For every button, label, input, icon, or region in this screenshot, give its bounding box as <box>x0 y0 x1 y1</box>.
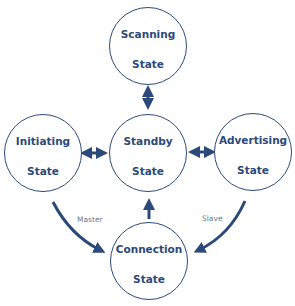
connection-label: Connection <box>111 243 187 255</box>
master-arrow <box>53 202 100 250</box>
initiating-sub: State <box>5 165 81 177</box>
connection-sub: State <box>111 273 187 285</box>
scanning-label: Scanning <box>110 28 186 40</box>
slave-label: Slave <box>202 214 223 223</box>
advertising-label: Advertising <box>215 134 291 146</box>
standby-label: Standby <box>110 135 186 147</box>
standby-sub: State <box>110 165 186 177</box>
connection-state-node: Connection State <box>110 222 188 300</box>
slave-arrow <box>199 201 245 250</box>
initiating-state-node: Initiating State <box>4 114 82 192</box>
master-label: Master <box>77 215 103 224</box>
scanning-state-node: Scanning State <box>109 7 187 85</box>
scanning-sub: State <box>110 58 186 70</box>
advertising-sub: State <box>215 164 291 176</box>
advertising-state-node: Advertising State <box>214 113 292 191</box>
standby-state-node: Standby State <box>109 114 187 192</box>
initiating-label: Initiating <box>5 135 81 147</box>
